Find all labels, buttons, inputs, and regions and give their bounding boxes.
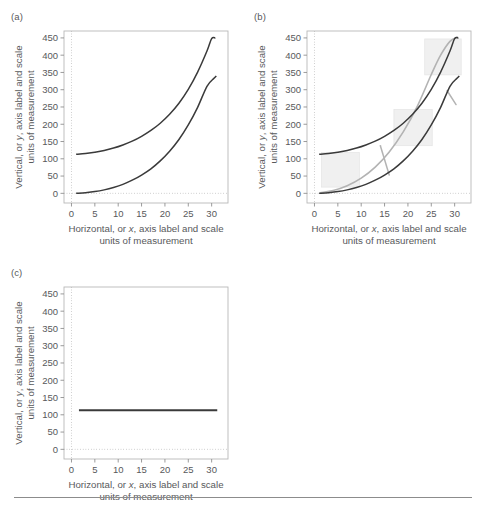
x-tick-label: 20 (160, 208, 171, 219)
y-tick-label: 450 (42, 288, 58, 299)
y-axis-title-line1: Vertical, or y, axis label and scale (13, 301, 24, 444)
y-tick-label: 400 (42, 50, 58, 61)
y-tick-label: 50 (290, 170, 301, 181)
y-tick-label: 300 (285, 84, 301, 95)
x-tick-label: 25 (183, 464, 194, 475)
y-tick-label: 150 (42, 136, 58, 147)
x-tick-label: 25 (426, 208, 437, 219)
y-tick-label: 0 (296, 188, 301, 199)
x-axis-title-pre: Horizontal, or (68, 223, 128, 234)
plot-frame (64, 31, 228, 203)
x-tick-label: 10 (356, 208, 367, 219)
y-axis-title-post: , axis label and scale (256, 45, 267, 135)
y-axis-title-line2: units of measurement (268, 70, 279, 163)
y-tick-label: 350 (42, 67, 58, 78)
y-tick-label: 400 (42, 306, 58, 317)
y-tick-label: 350 (285, 67, 301, 78)
plot-c: 050100150200250300350400450051015202530H… (0, 256, 243, 512)
y-tick-label: 250 (42, 357, 58, 368)
y-tick-label: 100 (285, 153, 301, 164)
y-tick-label: 0 (53, 444, 58, 455)
y-axis-title-post: , axis label and scale (13, 301, 24, 391)
x-axis-title-pre: Horizontal, or (68, 479, 128, 490)
x-tick-label: 15 (136, 464, 147, 475)
x-tick-label: 30 (206, 208, 217, 219)
y-tick-label: 450 (285, 32, 301, 43)
y-axis-title-pre: Vertical, or (13, 140, 24, 188)
figure-bottom-rule (14, 497, 472, 498)
x-axis-title-line1: Horizontal, or x, axis label and scale (68, 479, 223, 490)
x-axis-title-line2: units of measurement (99, 235, 192, 246)
x-tick-label: 5 (92, 464, 97, 475)
x-tick-label: 15 (379, 208, 390, 219)
y-tick-label: 50 (47, 170, 58, 181)
y-axis-title-post: , axis label and scale (13, 45, 24, 135)
y-tick-label: 350 (42, 323, 58, 334)
plot-a: 050100150200250300350400450051015202530H… (0, 0, 243, 256)
y-tick-label: 100 (42, 409, 58, 420)
y-axis-title-line2: units of measurement (25, 326, 36, 419)
x-tick-label: 20 (403, 208, 414, 219)
x-tick-label: 25 (183, 208, 194, 219)
y-tick-label: 200 (42, 375, 58, 386)
y-axis-title-pre: Vertical, or (13, 396, 24, 444)
panel-a: (a) 050100150200250300350400450051015202… (0, 0, 243, 256)
y-tick-label: 200 (285, 119, 301, 130)
y-tick-label: 0 (53, 188, 58, 199)
x-axis-title-post: , axis label and scale (134, 479, 224, 490)
x-axis-title-pre: Horizontal, or (311, 223, 371, 234)
y-axis-title-pre: Vertical, or (256, 140, 267, 188)
y-tick-label: 50 (47, 426, 58, 437)
panel-b: (b) 050100150200250300350400450051015202… (243, 0, 486, 256)
y-tick-label: 300 (42, 84, 58, 95)
x-tick-label: 30 (206, 464, 217, 475)
x-tick-label: 5 (335, 208, 340, 219)
x-tick-label: 0 (69, 208, 74, 219)
x-tick-label: 5 (92, 208, 97, 219)
y-tick-label: 450 (42, 32, 58, 43)
y-axis-title-line1: Vertical, or y, axis label and scale (256, 45, 267, 188)
y-tick-label: 100 (42, 153, 58, 164)
y-axis-title-line1: Vertical, or y, axis label and scale (13, 45, 24, 188)
plot-frame (64, 287, 228, 459)
x-tick-label: 0 (69, 464, 74, 475)
x-tick-label: 30 (449, 208, 460, 219)
box-upper-right (425, 39, 461, 75)
y-tick-label: 150 (285, 136, 301, 147)
x-tick-label: 20 (160, 464, 171, 475)
x-axis-title-line1: Horizontal, or x, axis label and scale (311, 223, 466, 234)
x-axis-title-line2: units of measurement (342, 235, 435, 246)
figure-root: (a) 050100150200250300350400450051015202… (0, 0, 486, 512)
y-tick-label: 400 (285, 50, 301, 61)
x-axis-title-post: , axis label and scale (134, 223, 224, 234)
y-tick-label: 300 (42, 340, 58, 351)
x-tick-label: 10 (113, 208, 124, 219)
panel-c: (c) 050100150200250300350400450051015202… (0, 256, 243, 512)
y-tick-label: 250 (42, 101, 58, 112)
y-axis-title-line2: units of measurement (25, 70, 36, 163)
y-tick-label: 150 (42, 392, 58, 403)
x-axis-title-line1: Horizontal, or x, axis label and scale (68, 223, 223, 234)
x-axis-title-post: , axis label and scale (377, 223, 467, 234)
y-tick-label: 250 (285, 101, 301, 112)
x-tick-label: 0 (312, 208, 317, 219)
y-tick-label: 200 (42, 119, 58, 130)
x-tick-label: 15 (136, 208, 147, 219)
plot-b: 050100150200250300350400450051015202530H… (243, 0, 486, 256)
x-tick-label: 10 (113, 464, 124, 475)
